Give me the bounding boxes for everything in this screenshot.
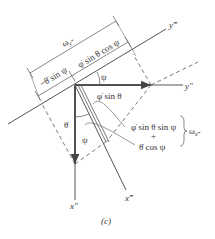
x-double-prime-label: x″ (69, 201, 78, 211)
plus-label: + (151, 131, 156, 141)
psi-top-label: ψ (101, 72, 107, 82)
theta-dot-label: θ̇ (64, 120, 69, 130)
extension-line (30, 73, 40, 100)
minus-theta-dot-sin-psi-label: −θ̇ sin ψ (38, 64, 69, 88)
projection-dashed (42, 104, 75, 164)
omega-x-brace (180, 116, 187, 146)
vector-decomposition-diagram: y‴ y″ x″ x‴ ωy‴ φ̇ sin θ cos ψ −θ̇ sin ψ… (0, 0, 215, 239)
psi-bottom-label: ψ (82, 135, 88, 145)
psi-angle-arc-bottom (75, 114, 89, 117)
psi-angle-arc-top (97, 72, 100, 85)
omega-x-label: ωx‴ (189, 126, 201, 137)
phi-dot-sin-theta-label: φ̇ sin θ (97, 91, 122, 101)
dimension-tick (35, 91, 41, 101)
theta-dot-cos-psi-label: θ̇ cos ψ (139, 142, 166, 152)
projection-dashed (75, 141, 107, 164)
dimension-tick (125, 37, 131, 47)
y-triple-prime-label: y‴ (168, 20, 178, 30)
y-double-prime-label: y″ (184, 81, 193, 91)
x-triple-prime-label: x‴ (124, 193, 134, 203)
leader-line (85, 123, 135, 145)
dimension-tick (69, 71, 75, 81)
projection-dashed (133, 54, 151, 85)
component-dimension (38, 42, 128, 96)
leader-line (93, 101, 125, 127)
figure-caption: (c) (101, 216, 111, 226)
phi-dot-sin-theta-cos-psi-label: φ̇ sin θ cos ψ (76, 37, 121, 70)
